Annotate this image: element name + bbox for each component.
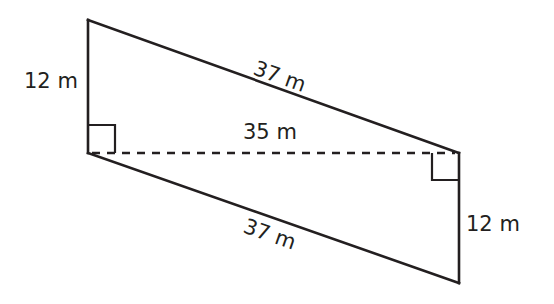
label-right-side: 12 m [466, 212, 520, 236]
label-top-side: 37 m [250, 56, 309, 97]
label-height-dashed: 35 m [243, 120, 297, 144]
bottom-side-edge [88, 153, 459, 283]
right-angle-marker-left [88, 125, 115, 153]
label-left-side: 12 m [24, 69, 78, 93]
label-bottom-side: 37 m [240, 214, 299, 254]
parallelogram-diagram: 12 m 37 m 35 m 37 m 12 m [0, 0, 554, 304]
right-angle-marker-right [432, 153, 459, 180]
